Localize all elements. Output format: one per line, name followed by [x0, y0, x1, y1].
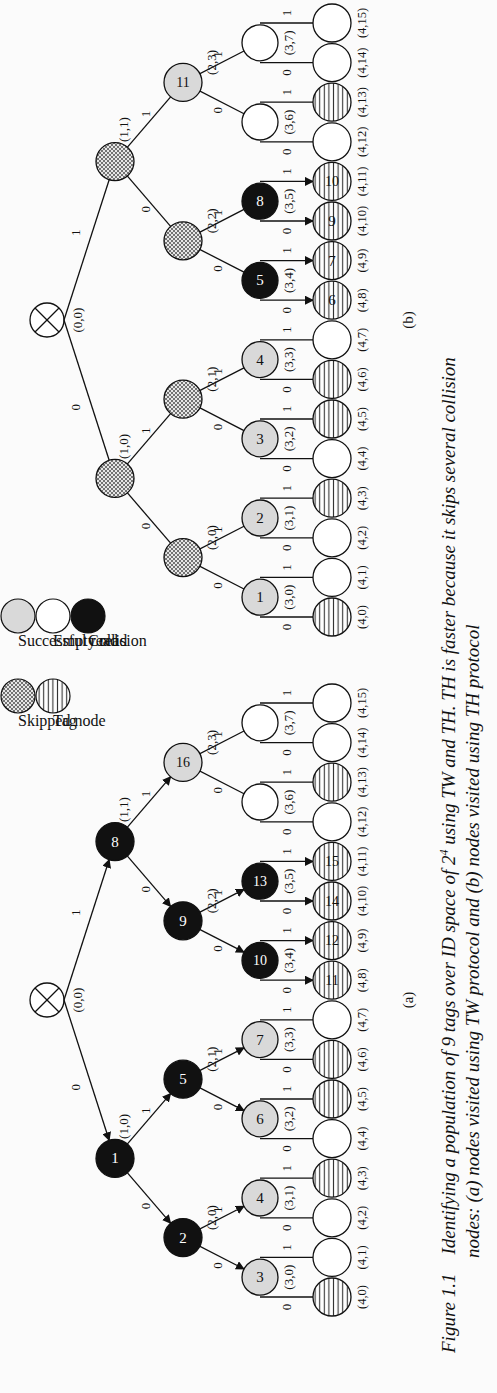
tree-node: 6	[242, 1101, 278, 1137]
node-coordinate-label: (4,6)	[355, 367, 369, 391]
node-order-label: 3	[256, 431, 264, 447]
skipped-node-icon	[164, 222, 202, 260]
edge-bit-label: 1	[138, 791, 153, 798]
node-coordinate-label: (4,1)	[355, 565, 369, 589]
node-coordinate-label: (2,2)	[204, 208, 219, 233]
leaf-node	[313, 598, 351, 636]
node-coordinate-label: (3,1)	[281, 1186, 296, 1211]
tag-node-icon	[313, 360, 351, 398]
tag-node-icon	[313, 83, 351, 121]
node-coordinate-label: (3,2)	[281, 1106, 296, 1131]
node-order-label: 8	[256, 193, 264, 209]
node-order-label: 4	[256, 1190, 264, 1206]
node-coordinate-label: (3,2)	[281, 426, 296, 451]
node-order-label: 6	[256, 1111, 264, 1127]
edge-bit-label: 0	[279, 829, 294, 836]
node-coordinate-label: (4,2)	[355, 1206, 369, 1230]
leaf-node	[313, 440, 351, 478]
figure-number: Figure 1.1	[438, 1273, 459, 1353]
edge-bit-label: 1	[279, 89, 294, 96]
success-legend-icon	[1, 599, 35, 633]
edge-bit-label: 0	[279, 1304, 294, 1311]
node-coordinate-label: (3,6)	[281, 790, 296, 815]
node-order-label: 16	[176, 755, 190, 770]
node-coordinate-label: (4,13)	[355, 87, 369, 117]
leaf-node	[313, 519, 351, 557]
empty-node-icon	[313, 1199, 351, 1237]
node-coordinate-label: (4,6)	[355, 1047, 369, 1071]
edge-bit-label: 0	[68, 1084, 83, 1091]
node-coordinate-label: (4,15)	[355, 8, 369, 38]
node-coordinate-label: (2,3)	[204, 730, 219, 755]
tree-edge	[64, 320, 109, 460]
tag-node-icon	[313, 1040, 351, 1078]
edge-bit-label: 0	[210, 1104, 225, 1111]
tree-node	[96, 143, 134, 181]
skipped-node-icon	[164, 539, 202, 577]
node-coordinate-label: (1,1)	[116, 797, 131, 822]
edge-bit-label: 1	[279, 1086, 294, 1093]
caption-text-1: Identifying a population of 9 tags over …	[438, 856, 459, 1255]
edge-bit-label: 0	[279, 307, 294, 314]
edge-bit-label: 1	[279, 848, 294, 855]
node-order-label: 9	[179, 913, 187, 929]
leaf-node	[313, 684, 351, 722]
node-coordinate-label: (4,2)	[355, 526, 369, 550]
node-order-label: 6	[328, 292, 336, 308]
edge-bit-label: 1	[68, 910, 83, 917]
edge-bit-label: 1	[279, 10, 294, 17]
edge-bit-label: 1	[138, 111, 153, 118]
tree-edge	[64, 860, 109, 1000]
leaf-node	[313, 1001, 351, 1039]
tree-node	[96, 459, 134, 497]
tree-node: 10	[242, 942, 278, 978]
tree-node: 4	[242, 342, 278, 378]
leaf-node	[313, 1199, 351, 1237]
node-coordinate-label: (3,3)	[281, 347, 296, 372]
node-order-label: 12	[325, 933, 339, 948]
empty-node-icon	[313, 1001, 351, 1039]
tree-edge	[64, 1000, 109, 1140]
empty-node-icon	[313, 558, 351, 596]
node-coordinate-label: (4,7)	[355, 328, 369, 352]
node-coordinate-label: (2,1)	[204, 367, 219, 392]
node-coordinate-label: (1,1)	[116, 117, 131, 142]
node-order-label: 10	[325, 174, 339, 189]
edge-bit-label: 0	[279, 149, 294, 156]
legend: Skipped nodeTagSuccessful readEmpty read…	[1, 599, 147, 730]
edge-bit-label: 0	[210, 107, 225, 114]
empty-node-icon	[242, 784, 278, 820]
tree-node	[242, 705, 278, 741]
edge-bit-label: 0	[138, 206, 153, 213]
node-coordinate-label: (4,15)	[355, 688, 369, 718]
leaf-node: 7	[313, 242, 351, 280]
collision-legend-icon	[71, 599, 105, 633]
edge-bit-label: 0	[279, 69, 294, 76]
edge-bit-label: 1	[279, 406, 294, 413]
tree-edge	[64, 180, 109, 320]
caption-text-2: nodes: (a) nodes visited using TW protoc…	[462, 625, 483, 1258]
node-coordinate-label: (4,12)	[355, 127, 369, 157]
node-coordinate-label: (3,1)	[281, 506, 296, 531]
tree-node: 5	[242, 262, 278, 298]
empty-node-icon	[313, 440, 351, 478]
tree-node: 8	[96, 823, 134, 861]
node-coordinate-label: (4,8)	[355, 968, 369, 992]
tree-node	[164, 222, 202, 260]
leaf-node	[313, 763, 351, 801]
edge-bit-label: 0	[279, 1066, 294, 1073]
tree-node: 8	[242, 183, 278, 219]
caption-superscript: 4	[437, 850, 451, 856]
leaf-node	[313, 479, 351, 517]
leaf-node	[313, 83, 351, 121]
node-order-label: 15	[325, 854, 339, 869]
tree-node	[164, 380, 202, 418]
panel-label: (a)	[400, 992, 417, 1009]
tree-node: 2	[164, 1219, 202, 1257]
panel-label: (b)	[400, 311, 417, 329]
root-node: (0,0)	[30, 983, 85, 1017]
edge-bit-label: 1	[138, 428, 153, 435]
tree-node	[242, 104, 278, 140]
tree-node: 16	[164, 743, 202, 781]
edge-bit-label: 1	[279, 168, 294, 175]
